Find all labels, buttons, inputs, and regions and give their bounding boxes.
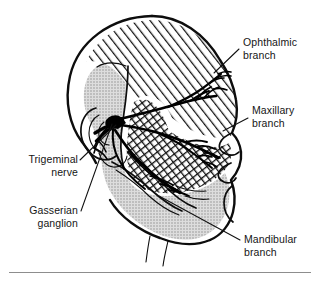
label-mandibular-branch: Mandibular branch	[244, 233, 297, 258]
label-trigeminal-nerve-line1: Trigeminal	[28, 153, 78, 165]
label-trigeminal-nerve-line2: nerve	[51, 166, 78, 178]
label-ophthalmic-branch-line1: Ophthalmic	[243, 36, 297, 48]
figure-root: Ophthalmic branch Maxillary branch Trige…	[0, 0, 320, 282]
label-gasserian-ganglion: Gasserian ganglion	[29, 204, 78, 229]
label-ophthalmic-branch: Ophthalmic branch	[243, 36, 297, 61]
label-gasserian-ganglion-line1: Gasserian	[29, 204, 78, 216]
label-mandibular-branch-line1: Mandibular	[244, 233, 297, 245]
label-maxillary-branch-line1: Maxillary	[252, 104, 295, 116]
label-maxillary-branch-line2: branch	[252, 117, 285, 129]
label-maxillary-branch: Maxillary branch	[252, 104, 295, 129]
trigeminal-nerve-diagram: Ophthalmic branch Maxillary branch Trige…	[0, 0, 320, 282]
label-mandibular-branch-line2: branch	[244, 246, 277, 258]
label-ophthalmic-branch-line2: branch	[243, 49, 276, 61]
label-trigeminal-nerve: Trigeminal nerve	[28, 153, 78, 178]
label-gasserian-ganglion-line2: ganglion	[37, 217, 78, 229]
